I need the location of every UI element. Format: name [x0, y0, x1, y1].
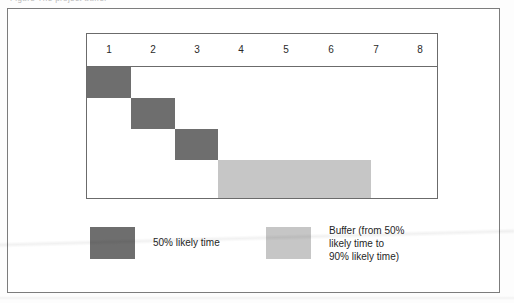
legend-swatch-buffer — [266, 227, 311, 259]
tick-label-1: 1 — [87, 44, 131, 56]
tick-label-4: 4 — [219, 44, 263, 56]
tick-label-5: 5 — [264, 44, 308, 56]
gantt-chart: 1 2 3 4 5 6 7 8 — [86, 33, 438, 199]
legend-swatch-task — [90, 227, 135, 259]
legend-label-buffer: Buffer (from 50% likely time to 90% like… — [329, 224, 404, 263]
chart-plot-area — [87, 67, 437, 199]
legend-label-task: 50% likely time — [153, 236, 220, 249]
figure-caption-sliver: Figure The project buffer — [10, 0, 250, 3]
tick-label-8: 8 — [398, 44, 442, 56]
chart-timescale-header: 1 2 3 4 5 6 7 8 — [87, 34, 437, 67]
bar-task-1 — [87, 67, 131, 98]
scan-edge-artifact — [0, 296, 514, 300]
tick-label-2: 2 — [131, 44, 175, 56]
tick-label-3: 3 — [175, 44, 219, 56]
bar-task-3 — [175, 129, 219, 160]
scanned-page: Figure The project buffer 1 2 3 4 5 6 7 … — [0, 0, 514, 303]
chart-legend: 50% likely time Buffer (from 50% likely … — [86, 223, 446, 279]
figure-frame: 1 2 3 4 5 6 7 8 50% likely time — [7, 8, 500, 293]
bar-project-buffer — [218, 160, 371, 198]
tick-label-6: 6 — [309, 44, 353, 56]
tick-label-7: 7 — [354, 44, 398, 56]
bar-task-2 — [131, 98, 175, 129]
